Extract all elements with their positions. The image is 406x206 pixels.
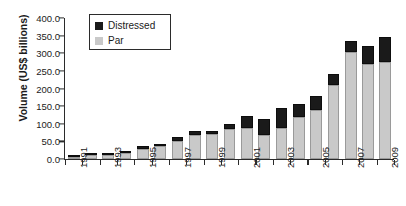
y-axis-tick-mark xyxy=(59,17,64,18)
legend-label-distressed: Distressed xyxy=(108,20,155,31)
x-axis-tick-mark xyxy=(342,160,343,165)
y-axis-tick-mark xyxy=(59,123,64,124)
chart-legend: Distressed Par xyxy=(89,14,171,50)
x-axis-tick-mark xyxy=(307,160,308,165)
x-axis-tick-labels: 1991199319951997199920012003200520072009 xyxy=(0,0,406,206)
legend-swatch-par xyxy=(95,37,103,45)
x-axis-tick-mark xyxy=(325,160,326,165)
x-axis-tick-mark xyxy=(255,160,256,165)
legend-item-par: Par xyxy=(95,33,166,48)
x-axis-tick-mark xyxy=(238,160,239,165)
x-axis-tick-mark xyxy=(377,160,378,165)
x-axis-tick-mark xyxy=(273,160,274,165)
x-axis-tick-mark xyxy=(169,160,170,165)
y-axis-tick-mark xyxy=(59,88,64,89)
x-axis-tick-mark xyxy=(134,160,135,165)
x-axis-tick-mark xyxy=(290,160,291,165)
y-axis-tick-mark xyxy=(59,35,64,36)
legend-label-par: Par xyxy=(108,35,124,46)
x-axis-tick-mark xyxy=(117,160,118,165)
x-axis-tick-mark xyxy=(186,160,187,165)
x-axis-tick-mark xyxy=(221,160,222,165)
x-axis-tick-mark xyxy=(204,160,205,165)
y-axis-tick-mark xyxy=(59,158,64,159)
x-axis-tick-mark xyxy=(359,160,360,165)
bar-chart: Volume (US$ billions) 400.0350.0300.0250… xyxy=(0,0,406,206)
legend-swatch-distressed xyxy=(95,22,103,30)
legend-item-distressed: Distressed xyxy=(95,18,166,33)
x-axis-tick-mark xyxy=(152,160,153,165)
x-axis-tick-mark xyxy=(82,160,83,165)
y-axis-tick-mark xyxy=(59,106,64,107)
x-axis-tick-mark xyxy=(65,160,66,165)
y-axis-tick-mark xyxy=(59,141,64,142)
x-axis-tick-mark xyxy=(394,160,395,165)
x-axis-tick-mark xyxy=(100,160,101,165)
y-axis-tick-mark xyxy=(59,53,64,54)
y-axis-tick-mark xyxy=(59,70,64,71)
